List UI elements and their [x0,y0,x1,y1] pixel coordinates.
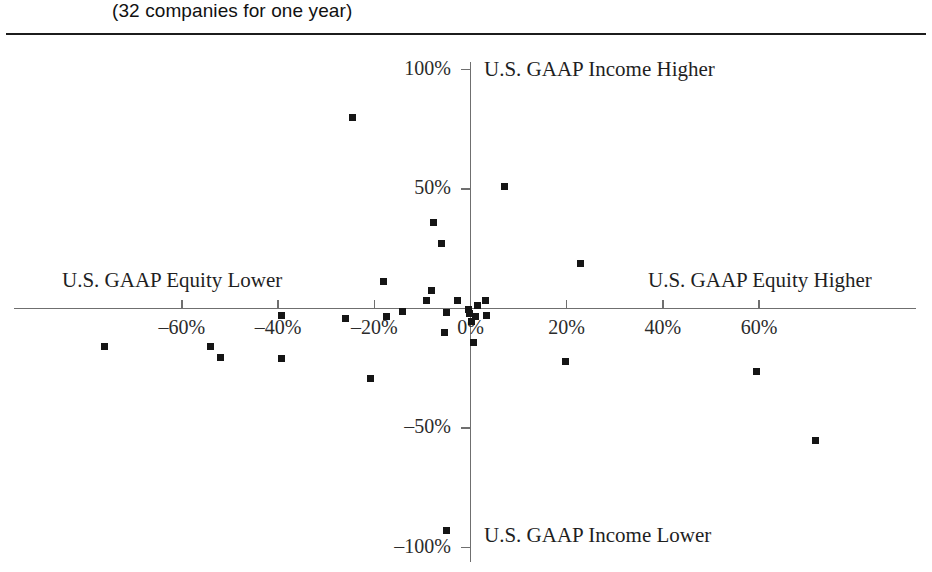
annotation-equity-higher: U.S. GAAP Equity Higher [648,268,872,293]
chart-subtitle: (32 companies for one year) [112,0,352,22]
data-point [482,297,489,304]
annotation-income-lower: U.S. GAAP Income Lower [484,523,711,548]
x-tick-label: 20% [512,316,622,339]
data-point [342,315,349,322]
y-tick-mark [461,547,470,548]
x-tick-label: –20% [319,316,429,339]
data-point [474,302,481,309]
data-point [217,354,224,361]
data-point [454,297,461,304]
annotation-equity-lower: U.S. GAAP Equity Lower [62,268,282,293]
y-tick-label: 100% [361,57,451,80]
scatter-plot: –60%–40%–20%0%20%40%60% 100%50%–50%–100%… [0,36,932,572]
y-tick-mark [461,427,470,428]
y-tick-label: –50% [361,415,451,438]
chart-header: (32 companies for one year) [0,0,932,36]
data-point [383,313,390,320]
data-point [101,343,108,350]
data-point [423,297,430,304]
y-tick-mark [461,69,470,70]
x-tick-mark [566,300,567,309]
data-point [349,114,356,121]
x-tick-mark [374,300,375,309]
data-point [438,240,445,247]
x-tick-mark [758,300,759,309]
data-point [443,309,450,316]
data-point [753,368,760,375]
data-point [501,183,508,190]
data-point [468,318,475,325]
x-tick-label: –60% [127,316,237,339]
data-point [207,343,214,350]
header-divider [6,33,926,35]
y-tick-label: 50% [361,176,451,199]
data-point [443,527,450,534]
x-tick-label: –40% [223,316,333,339]
data-point [399,308,406,315]
x-tick-label: 40% [608,316,718,339]
data-point [278,355,285,362]
data-point [428,287,435,294]
data-point [367,375,374,382]
y-tick-mark [461,188,470,189]
data-point [430,219,437,226]
data-point [278,312,285,319]
data-point [441,329,448,336]
data-point [577,260,584,267]
x-tick-label: 60% [704,316,814,339]
x-tick-mark [181,300,182,309]
data-point [562,358,569,365]
annotation-income-higher: U.S. GAAP Income Higher [484,57,715,82]
data-point [380,278,387,285]
y-tick-label: –100% [361,535,451,558]
x-tick-mark [662,300,663,309]
data-point [470,339,477,346]
data-point [483,312,490,319]
x-tick-mark [277,300,278,309]
data-point [812,437,819,444]
